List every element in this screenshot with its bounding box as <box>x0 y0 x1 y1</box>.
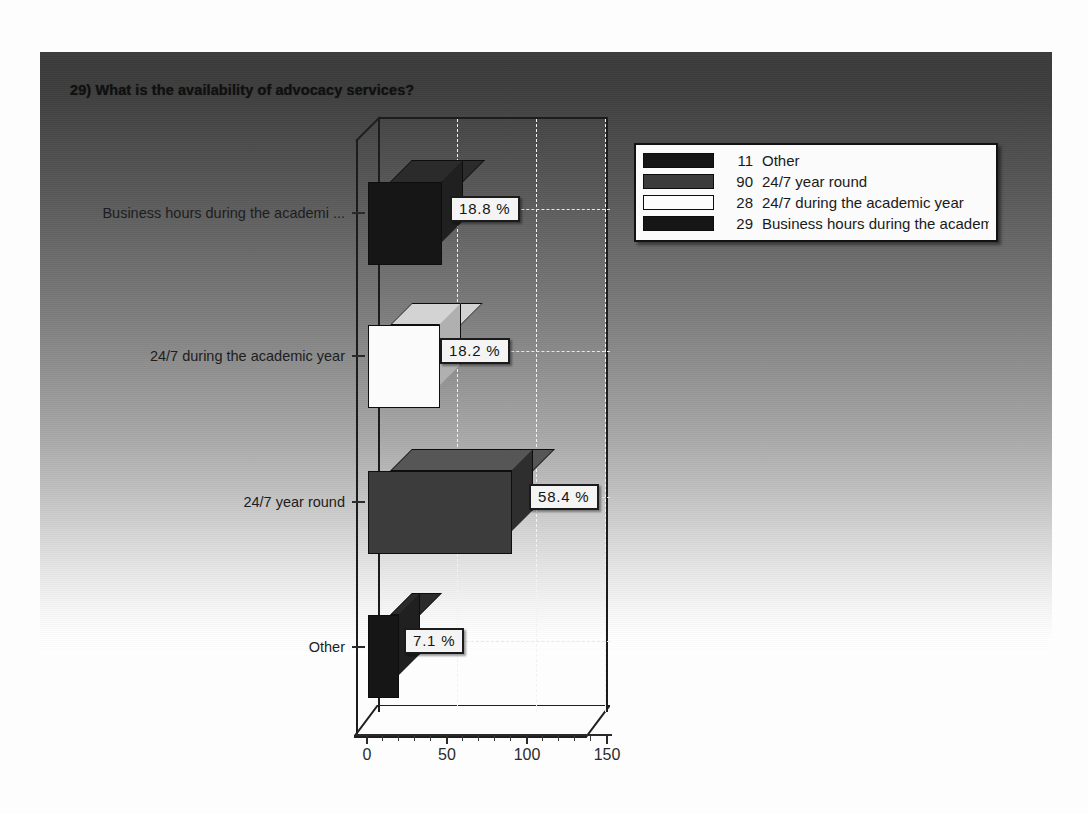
x-minor-tick <box>382 736 383 741</box>
x-tick-150 <box>606 736 608 744</box>
x-axis-label-50: 50 <box>438 746 456 764</box>
chart-legend[interactable]: 11 Other 90 24/7 year round 28 24/7 duri… <box>634 143 998 242</box>
value-label-business-hours: 18.8 % <box>450 196 520 222</box>
x-tick-50 <box>446 736 448 744</box>
bar-business-hours[interactable] <box>368 160 463 265</box>
legend-item-247-academic-year[interactable]: 28 24/7 during the academic year <box>643 192 989 213</box>
x-axis-label-0: 0 <box>363 746 372 764</box>
category-label-247-academic-year: 24/7 during the academic year <box>0 348 345 364</box>
gridline-100 <box>536 119 537 712</box>
bar-front-face <box>368 182 442 265</box>
x-minor-tick <box>558 736 559 741</box>
x-minor-tick <box>398 736 399 741</box>
x-minor-tick <box>494 736 495 741</box>
legend-swatch-icon <box>643 216 714 231</box>
y-axis-front-line <box>356 139 358 734</box>
category-tick-1 <box>352 212 365 214</box>
legend-label: 24/7 year round <box>762 173 867 190</box>
category-tick-2 <box>352 355 365 357</box>
x-axis-label-150: 150 <box>594 746 621 764</box>
legend-swatch-icon <box>643 195 714 210</box>
x-minor-tick <box>590 736 591 741</box>
legend-item-business-hours[interactable]: 29 Business hours during the academi <box>643 213 989 234</box>
x-tick-0 <box>366 736 368 744</box>
bar-front-face <box>368 615 399 698</box>
value-label-247-academic-year: 18.2 % <box>440 338 510 364</box>
legend-count: 29 <box>723 215 753 232</box>
legend-item-other[interactable]: 11 Other <box>643 150 989 171</box>
x-minor-tick <box>574 736 575 741</box>
bar-front-face <box>368 325 440 408</box>
category-tick-3 <box>352 501 365 503</box>
legend-swatch-icon <box>643 153 714 168</box>
value-label-247-year-round: 58.4 % <box>529 484 599 510</box>
legend-label: 24/7 during the academic year <box>762 194 964 211</box>
category-label-247-year-round: 24/7 year round <box>0 494 345 510</box>
category-label-other: Other <box>0 639 345 655</box>
gridline-150 <box>605 119 606 712</box>
x-minor-tick <box>414 736 415 741</box>
legend-label: Business hours during the academi <box>762 215 989 232</box>
category-label-business-hours: Business hours during the academi ... <box>0 205 345 221</box>
plot-depth-edge <box>354 114 384 144</box>
value-label-other: 7.1 % <box>404 628 464 654</box>
x-minor-tick <box>542 736 543 741</box>
x-minor-tick <box>462 736 463 741</box>
x-axis-label-100: 100 <box>514 746 541 764</box>
x-minor-tick <box>510 736 511 741</box>
scanned-page: 29) What is the availability of advocacy… <box>0 0 1088 813</box>
legend-swatch-icon <box>643 174 714 189</box>
legend-count: 90 <box>723 173 753 190</box>
bar-front-face <box>368 471 512 554</box>
chart-title: 29) What is the availability of advocacy… <box>70 82 414 98</box>
legend-label: Other <box>762 152 800 169</box>
legend-item-247-year-round[interactable]: 90 24/7 year round <box>643 171 989 192</box>
category-tick-4 <box>352 646 365 648</box>
x-minor-tick <box>430 736 431 741</box>
legend-count: 28 <box>723 194 753 211</box>
x-minor-tick <box>478 736 479 741</box>
legend-count: 11 <box>723 152 753 169</box>
x-tick-100 <box>526 736 528 744</box>
bar-247-year-round[interactable] <box>368 449 533 554</box>
